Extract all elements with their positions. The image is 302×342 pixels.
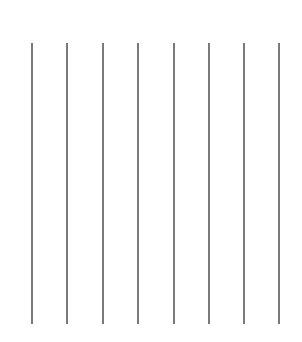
- vertical-line: [173, 43, 175, 324]
- vertical-line: [31, 43, 33, 324]
- vertical-line: [137, 43, 139, 324]
- vertical-line: [243, 43, 245, 324]
- vertical-line: [102, 43, 104, 324]
- vertical-line: [278, 43, 280, 324]
- vertical-line: [208, 43, 210, 324]
- blank-canvas: [0, 0, 302, 342]
- vertical-line: [66, 43, 68, 324]
